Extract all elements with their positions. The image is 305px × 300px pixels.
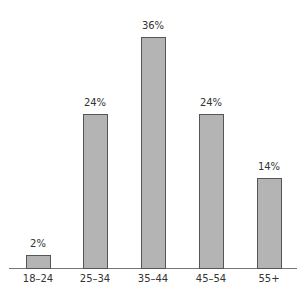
x-tick-label: 18–24	[13, 273, 63, 284]
x-tick-label: 55+	[244, 273, 294, 284]
bar	[199, 114, 224, 269]
bar-value-label: 24%	[75, 97, 115, 108]
bar-value-label: 14%	[249, 161, 289, 172]
bar-value-label: 24%	[191, 97, 231, 108]
bar	[83, 114, 108, 269]
x-tick-label: 35–44	[128, 273, 178, 284]
x-tick-label: 25–34	[70, 273, 120, 284]
bar-value-label: 36%	[133, 20, 173, 31]
x-tick-label: 45–54	[186, 273, 236, 284]
bar-chart: 2%18–2424%25–3436%35–4424%45–5414%55+	[0, 0, 305, 300]
bar-value-label: 2%	[18, 238, 58, 249]
bar	[26, 255, 51, 269]
bar	[141, 37, 166, 269]
bar	[257, 178, 282, 269]
